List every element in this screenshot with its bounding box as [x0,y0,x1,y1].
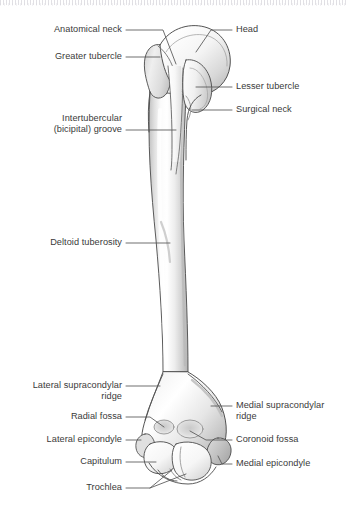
label-coronoid-fossa: Coronoid fossa [236,434,346,445]
label-trochlea: Trochlea [0,482,122,493]
label-medial-supracondylar-ridge: Medial supracondylar ridge [236,400,346,422]
label-lateral-supracondylar-ridge: Lateral supracondylar ridge [0,380,122,402]
bone-body [136,26,231,484]
label-lateral-epicondyle: Lateral epicondyle [0,434,122,445]
label-capitulum: Capitulum [0,456,122,467]
label-intertubercular-groove: Intertubercular (bicipital) groove [0,113,122,135]
label-medial-epicondyle: Medial epicondyle [236,458,346,469]
label-deltoid-tuberosity: Deltoid tuberosity [0,237,122,248]
label-anatomical-neck: Anatomical neck [0,24,122,35]
label-radial-fossa: Radial fossa [0,411,122,422]
trochlea [172,442,211,480]
label-greater-tubercle: Greater tubercle [0,51,122,62]
coronoid-fossa [177,420,203,438]
label-surgical-neck: Surgical neck [236,104,346,115]
label-head: Head [236,24,346,35]
label-lesser-tubercle: Lesser tubercle [236,81,346,92]
humerus-anatomical-figure [0,0,346,505]
